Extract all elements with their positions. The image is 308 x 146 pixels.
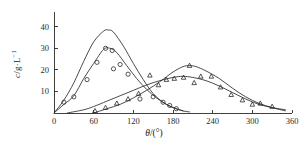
y-tick-label: 10 <box>41 86 50 96</box>
x-axis-label: θ/(°) <box>0 128 308 138</box>
data-curve <box>67 76 285 113</box>
data-point-triangle <box>156 83 161 87</box>
data-curve <box>54 30 190 113</box>
data-point-circle <box>85 77 89 81</box>
data-point-circle <box>126 72 130 76</box>
x-tick-label: 300 <box>246 116 259 126</box>
data-point-triangle <box>126 97 131 101</box>
x-tick-label: 180 <box>167 116 180 126</box>
axes-group <box>54 12 292 113</box>
data-point-triangle <box>115 101 120 105</box>
x-tick-label: 120 <box>127 116 140 126</box>
x-tick-label: 0 <box>52 116 56 126</box>
data-point-triangle <box>198 74 203 78</box>
curve-group <box>54 30 285 113</box>
data-point-triangle <box>192 80 197 84</box>
chart-canvas: 06012018024030036010203040 <box>0 0 308 146</box>
data-point-circle <box>111 67 115 71</box>
marker-group <box>62 46 275 112</box>
data-point-triangle <box>181 75 186 79</box>
y-tick-label: 30 <box>41 43 50 53</box>
x-tick-label: 240 <box>206 116 219 126</box>
y-tick-label: 20 <box>41 65 50 75</box>
data-point-triangle <box>148 73 153 77</box>
y-tick-label: 40 <box>41 22 50 32</box>
data-point-circle <box>95 60 99 64</box>
y-axis-label: c/g·L−1 <box>10 26 22 102</box>
x-tick-label: 60 <box>89 116 98 126</box>
figure: 06012018024030036010203040 c/g·L−1 θ/(°) <box>0 0 308 146</box>
data-point-circle <box>138 97 142 101</box>
data-curve <box>94 66 286 113</box>
x-tick-label: 360 <box>286 116 299 126</box>
data-point-circle <box>118 62 122 66</box>
